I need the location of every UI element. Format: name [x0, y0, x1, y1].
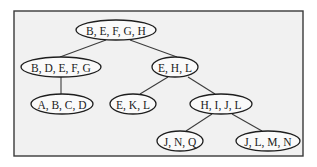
- node-label: E, H, L: [158, 62, 192, 75]
- tree-diagram: B, E, F, G, HB, D, E, F, GE, H, LA, B, C…: [0, 0, 317, 167]
- tree-node: E, K, L: [110, 94, 156, 114]
- node-label: B, D, E, F, G: [31, 62, 91, 75]
- tree-node: E, H, L: [152, 57, 198, 77]
- diagram-canvas: B, E, F, G, HB, D, E, F, GE, H, LA, B, C…: [0, 0, 317, 167]
- tree-node: B, D, E, F, G: [21, 57, 101, 77]
- node-label: E, K, L: [116, 99, 150, 112]
- tree-node: H, I, J, L: [190, 94, 252, 114]
- node-label: J, N, Q: [164, 136, 197, 149]
- node-label: H, I, J, L: [201, 99, 242, 112]
- tree-node: J, L, M, N: [236, 131, 300, 151]
- tree-node: A, B, C, D: [31, 94, 93, 114]
- tree-node: B, E, F, G, H: [76, 20, 156, 40]
- node-label: A, B, C, D: [37, 99, 86, 112]
- node-label: B, E, F, G, H: [86, 25, 146, 38]
- tree-node: J, N, Q: [157, 131, 203, 151]
- node-label: J, L, M, N: [244, 136, 292, 149]
